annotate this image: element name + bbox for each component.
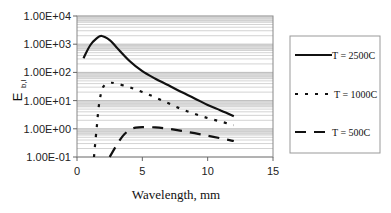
x-axis-ticks: 051015 [74, 157, 279, 177]
y-axis-label-subscript: b,l [19, 79, 28, 88]
x-tick-label: 10 [202, 165, 214, 177]
legend: T = 2500C T = 1000C T = 500C [290, 36, 380, 153]
chart: 1.00E+041.00E+031.00E+021.00E+011.00E+00… [0, 0, 391, 213]
x-tick-label: 0 [74, 165, 80, 177]
x-tick-label: 5 [139, 165, 145, 177]
legend-label-1000: T = 1000C [334, 89, 378, 100]
x-axis-label: Wavelength, mm [132, 187, 221, 202]
x-tick-label: 15 [267, 165, 279, 177]
y-tick-label: 1.00E+01 [24, 95, 71, 107]
series-line-dotted [94, 83, 234, 157]
series-lines [84, 36, 234, 157]
y-axis-label-main: E [10, 92, 25, 101]
legend-label-500: T = 500C [332, 127, 371, 138]
plot-bands [77, 17, 273, 135]
y-tick-label: 1.00E+00 [24, 123, 71, 135]
y-tick-label: 1.00E-01 [26, 151, 71, 163]
y-tick-label: 1.00E+02 [24, 66, 71, 78]
y-axis-ticks: 1.00E+041.00E+031.00E+021.00E+011.00E+00… [24, 10, 77, 163]
y-tick-label: 1.00E+03 [24, 38, 71, 50]
y-tick-label: 1.00E+04 [24, 10, 71, 22]
legend-label-2500: T = 2500C [332, 50, 376, 61]
